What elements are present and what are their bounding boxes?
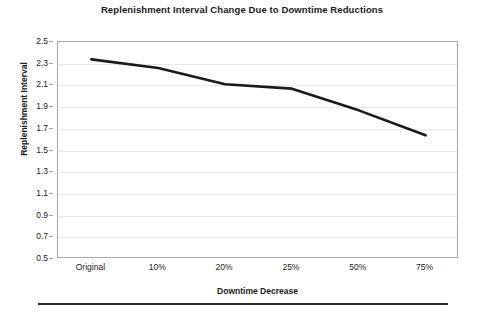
plot-area bbox=[57, 41, 458, 258]
x-axis-tick-label: 75% bbox=[416, 262, 433, 272]
y-axis-tick-label: 1.7 bbox=[36, 123, 48, 133]
y-axis-tick-label: 2.3 bbox=[36, 58, 48, 68]
y-axis-tick-mark bbox=[49, 128, 53, 129]
footer-rule bbox=[38, 303, 448, 305]
chart-title: Replenishment Interval Change Due to Dow… bbox=[0, 4, 484, 15]
x-axis-title: Downtime Decrease bbox=[57, 286, 458, 296]
y-axis-tick-mark bbox=[49, 106, 53, 107]
y-axis-tick-mark bbox=[49, 84, 53, 85]
series-line-layer bbox=[58, 42, 459, 259]
y-axis-tick-label: 1.3 bbox=[36, 166, 48, 176]
y-axis-tick-mark bbox=[49, 63, 53, 64]
y-axis-tick-mark bbox=[49, 193, 53, 194]
x-axis-tick-label: Original bbox=[76, 262, 105, 272]
x-axis-tick-label: 10% bbox=[149, 262, 166, 272]
y-axis-tick-label: 1.1 bbox=[36, 188, 48, 198]
y-axis-tick-label: 1.5 bbox=[36, 145, 48, 155]
y-axis-tick-label: 0.5 bbox=[36, 253, 48, 263]
y-axis-tick-mark bbox=[49, 258, 53, 259]
y-axis-tick-label: 2.1 bbox=[36, 79, 48, 89]
y-axis-tick-label: 1.9 bbox=[36, 101, 48, 111]
y-axis-tick-label: 0.7 bbox=[36, 231, 48, 241]
y-axis-tick-label: 2.5 bbox=[36, 36, 48, 46]
y-axis-tick-mark bbox=[49, 150, 53, 151]
y-axis-tick-mark bbox=[49, 215, 53, 216]
series-line-replenishment-interval bbox=[91, 59, 425, 135]
y-axis-tick-mark bbox=[49, 41, 53, 42]
y-axis-tick-mark bbox=[49, 171, 53, 172]
x-axis-tick-label: 25% bbox=[282, 262, 299, 272]
x-axis-tick-label: 50% bbox=[349, 262, 366, 272]
y-axis-title: Replenishment Interval bbox=[19, 39, 29, 179]
y-axis-tick-mark bbox=[49, 236, 53, 237]
chart-figure: Replenishment Interval Change Due to Dow… bbox=[0, 0, 484, 313]
y-axis-tick-label: 0.9 bbox=[36, 210, 48, 220]
x-axis-tick-labels: Original10%20%25%50%75% bbox=[57, 262, 458, 278]
x-axis-tick-label: 20% bbox=[216, 262, 233, 272]
